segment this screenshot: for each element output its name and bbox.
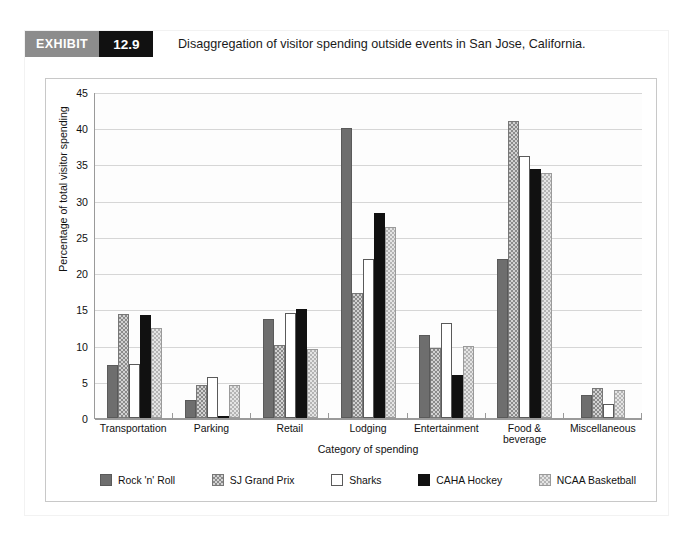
y-axis-tick: 25 (60, 232, 88, 244)
exhibit-number: 12.9 (99, 31, 153, 57)
bar[interactable] (107, 365, 118, 418)
bar[interactable] (296, 309, 307, 418)
bar[interactable] (140, 315, 151, 418)
legend-label: SJ Grand Prix (230, 475, 295, 486)
bar[interactable] (352, 293, 363, 418)
y-axis-tick: 10 (60, 341, 88, 353)
x-axis-label: Category of spending (94, 443, 642, 455)
bar[interactable] (285, 313, 296, 418)
legend-swatch-icon (539, 474, 551, 486)
bar-group (329, 93, 407, 418)
y-axis-ticks: 051015202530354045 (60, 93, 88, 419)
bar[interactable] (530, 169, 541, 418)
exhibit-caption: Disaggregation of visitor spending outsi… (178, 31, 585, 57)
y-axis-tick: 40 (60, 123, 88, 135)
x-axis-tick-label: Lodging (329, 423, 407, 439)
bar-group (486, 93, 564, 418)
y-axis-tick: 5 (60, 377, 88, 389)
x-axis-tick-label: Retail (251, 423, 329, 439)
y-axis-tick: 30 (60, 196, 88, 208)
bar[interactable] (363, 259, 374, 418)
x-axis-tick-label: Transportation (94, 423, 172, 439)
bar[interactable] (196, 385, 207, 418)
x-axis-tick-label: Parking (172, 423, 250, 439)
legend-item[interactable]: NCAA Basketball (539, 474, 636, 486)
bar[interactable] (274, 345, 285, 418)
bar[interactable] (508, 121, 519, 418)
bar-group (251, 93, 329, 418)
bar[interactable] (603, 404, 614, 418)
bar[interactable] (207, 377, 218, 418)
legend-item[interactable]: SJ Grand Prix (212, 474, 295, 486)
bar[interactable] (185, 400, 196, 418)
bar-group (173, 93, 251, 418)
chart-plot-area: Percentage of total visitor spending 051… (46, 79, 656, 501)
bar[interactable] (541, 173, 552, 418)
legend-item[interactable]: Sharks (331, 474, 381, 486)
exhibit-tag-label: EXHIBIT (25, 31, 99, 57)
bar[interactable] (519, 156, 530, 418)
plot-canvas (94, 93, 642, 419)
legend-label: Sharks (349, 475, 381, 486)
bar-group (408, 93, 486, 418)
x-axis-tick-label: Entertainment (407, 423, 485, 439)
bar[interactable] (218, 416, 229, 418)
legend-swatch-icon (331, 474, 343, 486)
y-axis-tick: 15 (60, 304, 88, 316)
y-axis-tick: 45 (60, 87, 88, 99)
bar[interactable] (452, 375, 463, 418)
bar[interactable] (307, 349, 318, 418)
x-axis-tick-labels: TransportationParkingRetailLodgingEntert… (94, 423, 642, 439)
bar[interactable] (430, 348, 441, 418)
bar[interactable] (592, 388, 603, 418)
bar-group (564, 93, 642, 418)
bar[interactable] (419, 335, 430, 418)
bar-group (95, 93, 173, 418)
legend-label: NCAA Basketball (557, 475, 636, 486)
chart-frame: Percentage of total visitor spending 051… (45, 78, 657, 502)
legend-swatch-icon (418, 474, 430, 486)
bar[interactable] (441, 323, 452, 418)
y-axis-tick: 0 (60, 413, 88, 425)
bar[interactable] (463, 346, 474, 418)
legend-item[interactable]: CAHA Hockey (418, 474, 502, 486)
x-axis-tick-label: Miscellaneous (564, 423, 642, 439)
page: EXHIBIT 12.9 Disaggregation of visitor s… (0, 0, 690, 536)
x-axis-tick-label: Food & beverage (485, 423, 563, 439)
y-axis-tick: 35 (60, 159, 88, 171)
bar[interactable] (129, 364, 140, 418)
legend-label: Rock 'n' Roll (118, 475, 175, 486)
bar[interactable] (229, 385, 240, 418)
bar[interactable] (263, 319, 274, 418)
gridline (95, 419, 642, 420)
bar[interactable] (151, 328, 162, 418)
exhibit-header: EXHIBIT 12.9 (25, 31, 153, 57)
bar[interactable] (385, 227, 396, 418)
bar[interactable] (581, 395, 592, 418)
bar[interactable] (341, 128, 352, 418)
bar[interactable] (118, 314, 129, 418)
bar-groups (95, 93, 642, 418)
legend-label: CAHA Hockey (436, 475, 502, 486)
legend-item[interactable]: Rock 'n' Roll (100, 474, 175, 486)
y-axis-tick: 20 (60, 268, 88, 280)
bar[interactable] (374, 213, 385, 418)
bar[interactable] (497, 259, 508, 418)
chart-legend: Rock 'n' RollSJ Grand PrixSharksCAHA Hoc… (94, 469, 642, 491)
legend-swatch-icon (100, 474, 112, 486)
bar[interactable] (614, 390, 625, 418)
legend-swatch-icon (212, 474, 224, 486)
